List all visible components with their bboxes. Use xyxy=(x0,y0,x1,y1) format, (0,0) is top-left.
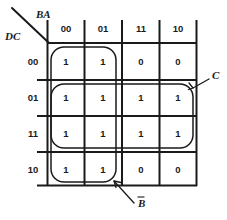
karnaugh-map-figure: BA DC 00 01 11 10 00 01 11 10 1 1 0 0 xyxy=(0,0,227,220)
group-label-b-not: B xyxy=(137,197,145,209)
cell-r0c2: 0 xyxy=(138,56,143,67)
cell-r3c2: 0 xyxy=(138,164,143,175)
row-header-3: 10 xyxy=(28,164,39,175)
cell-r3c3: 0 xyxy=(175,164,180,175)
column-header-0: 00 xyxy=(61,23,72,34)
leader-line-b-not xyxy=(114,181,134,203)
cell-r2c0: 1 xyxy=(63,128,69,139)
cell-r3c1: 1 xyxy=(100,164,106,175)
cell-r0c1: 1 xyxy=(100,56,106,67)
cell-r1c2: 1 xyxy=(138,92,144,103)
karnaugh-map-canvas: BA DC 00 01 11 10 00 01 11 10 1 1 0 0 xyxy=(0,0,227,220)
cell-r2c1: 1 xyxy=(100,128,106,139)
cell-r2c2: 1 xyxy=(138,128,144,139)
side-variables-label: DC xyxy=(4,30,21,42)
row-header-0: 00 xyxy=(28,56,39,67)
row-header-2: 11 xyxy=(28,128,39,139)
cell-r1c0: 1 xyxy=(63,92,69,103)
cell-r0c0: 1 xyxy=(63,56,69,67)
cell-r2c3: 1 xyxy=(175,128,181,139)
column-header-1: 01 xyxy=(98,23,109,34)
cell-r0c3: 0 xyxy=(175,56,180,67)
column-header-3: 10 xyxy=(173,23,184,34)
column-header-2: 11 xyxy=(136,23,147,34)
group-label-c: C xyxy=(212,69,220,81)
top-variables-label: BA xyxy=(35,8,51,20)
cell-r1c1: 1 xyxy=(100,92,106,103)
cell-r1c3: 1 xyxy=(175,92,181,103)
cell-r3c0: 1 xyxy=(63,164,69,175)
row-header-1: 01 xyxy=(28,92,39,103)
